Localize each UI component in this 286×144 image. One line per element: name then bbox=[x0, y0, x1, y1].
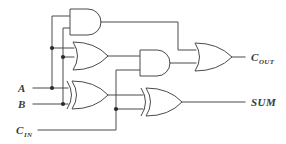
xor-first-gate-body bbox=[72, 81, 108, 109]
input-label-a: A bbox=[17, 82, 26, 94]
and-mid-gate-body bbox=[140, 50, 170, 76]
output-label-cout-subscript: OUT bbox=[259, 58, 275, 66]
output-label-cout: C bbox=[251, 51, 259, 63]
junction-dot-a-xor bbox=[50, 86, 54, 90]
xor-first-back-arc bbox=[67, 81, 72, 109]
or-out-gate-body bbox=[195, 43, 232, 71]
junction-dot-cin bbox=[114, 107, 118, 111]
input-label-b: B bbox=[17, 98, 26, 110]
or-mid-gate-body bbox=[73, 42, 108, 70]
input-label-cin-subscript: IN bbox=[23, 131, 33, 139]
wire-and-top-output bbox=[101, 22, 196, 50]
output-label-sum: SUM bbox=[251, 96, 277, 108]
wire-b-vertical-branch bbox=[63, 28, 70, 104]
junction-dot-a-or bbox=[50, 46, 54, 50]
input-label-cin: C bbox=[16, 124, 24, 136]
xor-second-gate-body bbox=[146, 88, 182, 116]
junction-dot-b-or bbox=[61, 55, 65, 59]
and-top-gate-body bbox=[70, 9, 101, 35]
circuit-canvas: A B C IN C OUT SUM bbox=[0, 0, 286, 144]
junction-dot-b-xor bbox=[61, 102, 65, 106]
wire-a-vertical-branch bbox=[52, 16, 70, 88]
full-adder-circuit-diagram: A B C IN C OUT SUM bbox=[0, 0, 286, 144]
xor-second-back-arc bbox=[141, 88, 146, 116]
